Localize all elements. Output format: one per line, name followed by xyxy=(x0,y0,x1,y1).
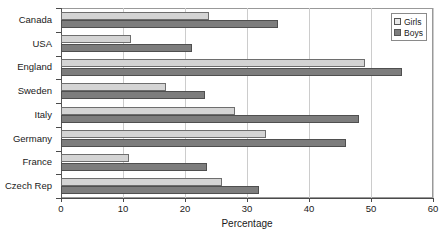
x-axis-tick-40 xyxy=(309,198,310,202)
bar-girls-england xyxy=(61,59,365,67)
category-label-germany: Germany xyxy=(0,134,52,144)
chart-legend: Girls Boys xyxy=(391,13,427,41)
category-label-italy: Italy xyxy=(0,110,52,120)
bar-group xyxy=(61,127,433,151)
bar-group xyxy=(61,174,433,198)
bar-group xyxy=(61,79,433,103)
x-axis-tick-label-10: 10 xyxy=(111,203,135,214)
x-axis-tick-20 xyxy=(185,198,186,202)
bar-boys-czech-rep xyxy=(61,186,259,194)
bar-group xyxy=(61,151,433,175)
x-axis-tick-label-0: 0 xyxy=(49,203,73,214)
bar-boys-sweden xyxy=(61,91,205,99)
legend-label-girls: Girls xyxy=(404,17,421,27)
bar-boys-germany xyxy=(61,139,346,147)
category-label-england: England xyxy=(0,62,52,72)
legend-swatch-boys-icon xyxy=(394,29,401,36)
legend-item-boys: Boys xyxy=(394,27,423,38)
x-axis: 0102030405060 xyxy=(61,198,433,220)
x-axis-tick-0 xyxy=(61,198,62,202)
x-axis-tick-10 xyxy=(123,198,124,202)
bar-group xyxy=(61,32,433,56)
x-axis-tick-label-40: 40 xyxy=(297,203,321,214)
bar-boys-canada xyxy=(61,20,278,28)
bar-boys-usa xyxy=(61,44,192,52)
legend-item-girls: Girls xyxy=(394,16,423,27)
category-axis-labels: CanadaUSAEnglandSwedenItalyGermanyFrance… xyxy=(0,8,56,198)
bar-girls-canada xyxy=(61,12,209,20)
x-axis-tick-label-60: 60 xyxy=(421,203,445,214)
bar-boys-france xyxy=(61,163,207,171)
category-label-usa: USA xyxy=(0,39,52,49)
category-label-canada: Canada xyxy=(0,15,52,25)
category-label-sweden: Sweden xyxy=(0,86,52,96)
bar-chart: CanadaUSAEnglandSwedenItalyGermanyFrance… xyxy=(0,0,448,244)
bar-girls-france xyxy=(61,154,129,162)
bar-girls-sweden xyxy=(61,83,166,91)
legend-swatch-girls-icon xyxy=(394,18,401,25)
bar-girls-italy xyxy=(61,107,235,115)
x-axis-tick-label-30: 30 xyxy=(235,203,259,214)
x-axis-label: Percentage xyxy=(61,218,433,229)
x-axis-tick-60 xyxy=(433,198,434,202)
x-axis-tick-label-20: 20 xyxy=(173,203,197,214)
x-axis-tick-label-50: 50 xyxy=(359,203,383,214)
bar-group xyxy=(61,8,433,32)
x-axis-tick-50 xyxy=(371,198,372,202)
bar-girls-usa xyxy=(61,35,131,43)
bar-boys-england xyxy=(61,68,402,76)
x-axis-tick-30 xyxy=(247,198,248,202)
bar-group xyxy=(61,56,433,80)
gridline-60 xyxy=(433,8,434,198)
bar-group xyxy=(61,103,433,127)
category-label-france: France xyxy=(0,157,52,167)
bar-boys-italy xyxy=(61,115,359,123)
category-label-czech-rep: Czech Rep xyxy=(0,181,52,191)
legend-label-boys: Boys xyxy=(404,28,423,38)
bar-girls-czech-rep xyxy=(61,178,222,186)
plot-area xyxy=(61,8,433,198)
bar-girls-germany xyxy=(61,130,266,138)
